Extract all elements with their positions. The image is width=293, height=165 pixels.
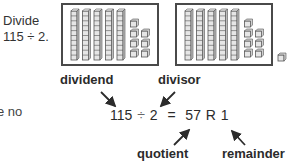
arrow-quotient [174,130,189,145]
arrow-remainder [232,131,245,145]
arrow-divisor [161,92,175,106]
arrow-dividend [101,92,115,106]
label-arrows [0,0,293,165]
